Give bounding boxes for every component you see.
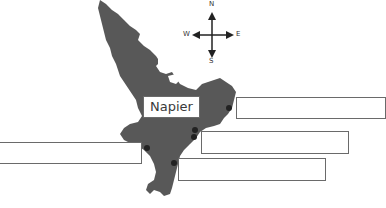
location-dot-1 <box>226 105 232 111</box>
answer-box-3[interactable] <box>201 131 349 154</box>
answer-box-1[interactable] <box>236 97 386 119</box>
compass-south-label: S <box>209 57 213 65</box>
compass-west-label: W <box>183 30 190 38</box>
location-dot-3 <box>191 134 197 140</box>
location-dot-2 <box>192 127 198 133</box>
north-arrow-icon <box>208 12 216 20</box>
compass-north-label: N <box>209 0 214 8</box>
location-dot-4 <box>144 145 150 151</box>
location-dot-5 <box>171 160 177 166</box>
answer-box-2[interactable] <box>0 142 142 164</box>
answer-box-4[interactable] <box>178 158 326 181</box>
compass-rose <box>192 5 242 63</box>
napier-label: Napier <box>143 96 200 118</box>
compass-east-label: E <box>236 30 240 38</box>
east-arrow-icon <box>226 31 234 39</box>
northland-inlet <box>158 58 166 68</box>
west-arrow-icon <box>192 31 200 39</box>
